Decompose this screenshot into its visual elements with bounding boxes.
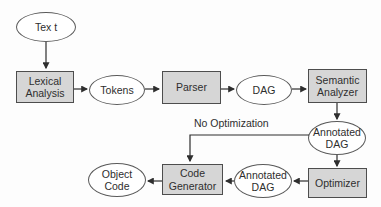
node-annotated-dag-bottom-label: Annotated DAG [235, 169, 291, 194]
node-lexical-analysis: Lexical Analysis [16, 71, 74, 103]
node-semantic-analyzer: Semantic Analyzer [308, 69, 367, 103]
node-code-generator-label: Code Generator [163, 167, 222, 192]
node-tokens-label: Tokens [100, 84, 133, 96]
node-tokens: Tokens [89, 75, 145, 105]
compiler-flowchart: Tex t Lexical Analysis Tokens Parser DAG… [0, 0, 381, 207]
node-semantic-analyzer-label: Semantic Analyzer [309, 74, 366, 99]
node-text: Tex t [16, 12, 76, 42]
node-text-label: Tex t [35, 21, 57, 33]
node-parser: Parser [162, 71, 221, 104]
node-code-generator: Code Generator [162, 164, 223, 195]
node-dag-label: DAG [253, 84, 276, 96]
node-annotated-dag-top: Annotated DAG [308, 121, 366, 155]
node-dag: DAG [236, 75, 292, 105]
node-annotated-dag-top-label: Annotated DAG [309, 126, 365, 151]
node-object-code: Object Code [88, 163, 146, 197]
arrow-no-optimization-bypass [190, 135, 309, 161]
node-optimizer-label: Optimizer [315, 177, 360, 189]
node-lexical-analysis-label: Lexical Analysis [17, 75, 73, 100]
node-parser-label: Parser [176, 81, 207, 93]
node-object-code-label: Object Code [89, 168, 145, 193]
node-optimizer: Optimizer [308, 168, 367, 198]
node-annotated-dag-bottom: Annotated DAG [234, 164, 292, 198]
edge-label-no-optimization: No Optimization [194, 117, 269, 129]
